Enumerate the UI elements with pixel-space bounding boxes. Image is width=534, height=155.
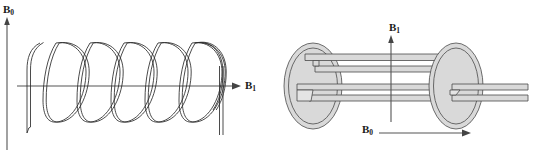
solenoid-winding — [27, 42, 226, 135]
figure-canvas — [0, 0, 534, 155]
figure-root: B0 B1 B1 B0 — [0, 0, 534, 155]
solenoid-coil-panel — [4, 17, 241, 150]
left-vertical-axis — [4, 17, 10, 150]
right-horizontal-axis — [379, 130, 471, 137]
left-axis-label-b1: B1 — [245, 80, 256, 91]
right-axis-label-b1: B1 — [389, 22, 400, 33]
left-axis-label-b0: B0 — [3, 4, 14, 15]
right-axis-label-b0: B0 — [362, 124, 373, 135]
left-horizontal-axis — [17, 83, 241, 90]
right-vertical-axis — [388, 35, 394, 122]
saddle-coil-panel — [284, 35, 528, 136]
